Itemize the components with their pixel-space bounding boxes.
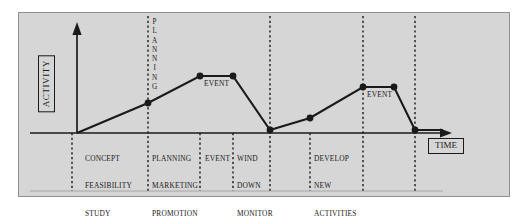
phase-line: PROMOTION [152, 209, 211, 218]
phase-line: FEASIBILITY [85, 181, 132, 190]
x-axis-label: TIME [428, 138, 464, 154]
planning-letter: G [152, 83, 157, 92]
phase-line: MARKETING [152, 181, 211, 190]
phase-column-concept: CONCEPT FEASIBILITY STUDY [85, 136, 132, 219]
event-label-second: EVENT [367, 90, 392, 99]
activity-curve [77, 76, 443, 133]
data-point [230, 73, 237, 80]
phase-column-event: EVENT [205, 136, 230, 181]
phase-column-wind-down: WIND DOWN MONITOR AND REVIEW MARKETING [237, 136, 283, 219]
planning-letter: N [152, 74, 157, 83]
planning-letter: P [152, 18, 157, 27]
phase-line: MONITOR [237, 209, 283, 218]
phase-line: EVENT [205, 154, 230, 163]
planning-vertical-label: P L A N N I N G [152, 18, 157, 92]
data-point [360, 84, 367, 91]
data-point-group [145, 73, 419, 134]
phase-column-develop: DEVELOP NEW ACTIVITIES MAINTENANCE BOOKI… [314, 136, 370, 219]
phase-line: ACTIVITIES [314, 209, 370, 218]
phase-line: DEVELOP [314, 154, 370, 163]
phase-column-planning: PLANNING MARKETING PROMOTION CONSTRUCTIO… [152, 136, 211, 219]
phase-line: DOWN [237, 181, 283, 190]
phase-line: STUDY [85, 209, 132, 218]
data-point [145, 100, 152, 107]
y-axis [72, 22, 81, 133]
phase-line: NEW [314, 181, 370, 190]
phase-line: PLANNING [152, 154, 211, 163]
y-axis-label: ACTIVITY [38, 55, 55, 112]
data-point [267, 127, 274, 134]
planning-letter: I [152, 64, 157, 73]
planning-letter: N [152, 55, 157, 64]
planning-letter: L [152, 27, 157, 36]
data-point [307, 115, 314, 122]
phase-line: WIND [237, 154, 283, 163]
event-label-first: EVENT [204, 79, 229, 88]
data-point [412, 127, 419, 134]
data-point [197, 73, 204, 80]
planning-letter: A [152, 37, 157, 46]
planning-letter: N [152, 46, 157, 55]
y-axis-arrow-icon [72, 22, 81, 35]
phase-line: CONCEPT [85, 154, 132, 163]
diagram-canvas: ACTIVITY TIME P L A N N I N G EVENT EVEN… [0, 0, 529, 219]
